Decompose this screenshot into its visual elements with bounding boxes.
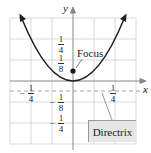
y-tick-neg-1-4: 1 4: [58, 114, 64, 133]
x-axis-label: x: [143, 83, 148, 95]
x-tick-neg-1-4: 1 4: [28, 84, 34, 103]
y-tick-neg-1-8-sign: –: [50, 96, 55, 106]
focus-label: Focus: [77, 47, 103, 59]
directrix-label-box: Directrix: [88, 120, 136, 142]
y-tick-neg-1-8: 1 8: [58, 93, 64, 112]
y-tick-neg-1-4-sign: –: [50, 117, 55, 127]
y-tick-1-8: 1 8: [58, 54, 64, 73]
x-tick-neg-1-4-sign: –: [20, 87, 25, 97]
y-tick-1-4: 1 4: [58, 35, 64, 54]
x-tick-1-4: 1 4: [110, 84, 116, 103]
focus-point: [70, 68, 75, 73]
directrix-label: Directrix: [93, 126, 133, 138]
y-axis-label: y: [63, 2, 68, 14]
